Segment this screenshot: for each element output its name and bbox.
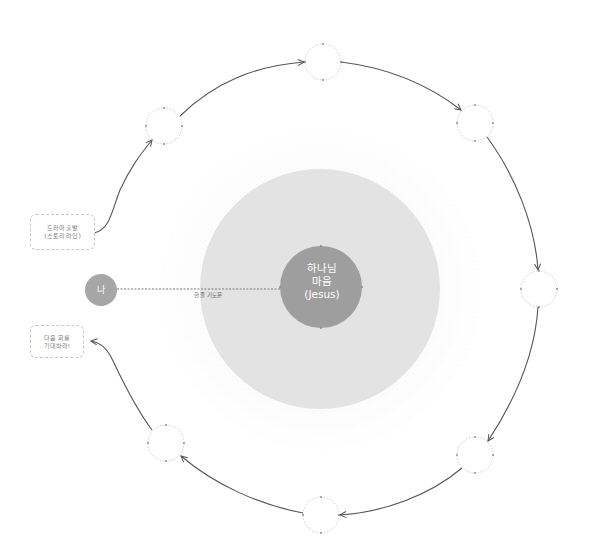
arrow-right-to-bottom-right <box>488 307 538 441</box>
arrow-bottom-left-to-end <box>91 341 152 430</box>
center-label-line3: (Jesus) <box>281 288 363 301</box>
connector-label: 한 줄 기도문 <box>178 291 238 299</box>
me-label: 나 <box>85 283 117 297</box>
cycle-node-bottom[interactable] <box>303 497 339 533</box>
start-box-line2: (스토리 라인) <box>44 232 81 240</box>
arrow-top-right-to-right <box>487 137 538 270</box>
end-box-line1: 다음 회를 <box>44 334 70 342</box>
arrow-top-left-to-top <box>180 62 304 116</box>
arrow-start-to-top-left <box>94 140 152 233</box>
start-box[interactable]: 드라마 출발 (스토리 라인) <box>30 214 95 250</box>
cycle-node-bottom-right[interactable] <box>457 437 493 473</box>
cycle-node-top-right[interactable] <box>457 105 493 141</box>
end-box-line2: 기대하라! <box>44 342 70 350</box>
center-label: 하나님 마음 (Jesus) <box>281 262 363 301</box>
arrow-top-to-top-right <box>341 62 461 110</box>
cycle-node-bottom-left[interactable] <box>148 425 184 461</box>
arrow-bottom-right-to-bottom <box>340 468 462 515</box>
cycle-node-right[interactable] <box>521 271 557 307</box>
center-label-line2: 마음 <box>281 275 363 288</box>
cycle-node-top[interactable] <box>305 44 341 80</box>
start-box-line1: 드라마 출발 <box>44 224 81 232</box>
cycle-node-top-left[interactable] <box>146 108 182 144</box>
center-label-line1: 하나님 <box>281 262 363 275</box>
arrow-bottom-to-bottom-left <box>181 456 303 513</box>
end-box[interactable]: 다음 회를 기대하라! <box>30 325 84 358</box>
